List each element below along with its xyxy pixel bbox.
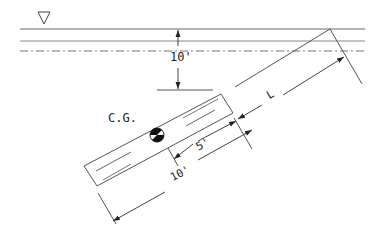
incline-line xyxy=(235,29,330,87)
diagram-canvas xyxy=(0,0,382,246)
free-surface-triangle-icon xyxy=(38,12,50,24)
hinge-extension-line xyxy=(330,29,362,84)
dimension-L xyxy=(238,57,344,119)
ext-line-bottom xyxy=(98,193,116,224)
depth-label: 10' xyxy=(170,50,192,64)
ext-line-top xyxy=(234,118,252,149)
cg-label: C.G. xyxy=(108,111,137,125)
centroid-marker-icon xyxy=(150,127,164,142)
